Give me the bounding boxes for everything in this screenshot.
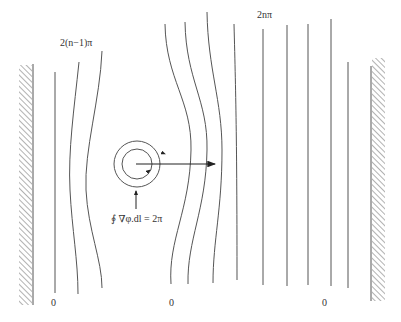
circulation-label: ∮ ∇φ.dl = 2π [111, 213, 162, 225]
zero-label-left: 0 [51, 297, 56, 308]
superfluid-phase-diagram: 2(n−1)π 2nπ ∮ ∇φ.dl = 2π 0 0 0 [0, 0, 401, 322]
phase-label-right: 2nπ [257, 9, 272, 20]
contour-line [165, 24, 191, 284]
contour-line [185, 22, 207, 284]
phase-label-left: 2(n−1)π [60, 37, 92, 49]
right-wall [371, 58, 385, 301]
contour-line [234, 24, 237, 280]
contour-line [70, 62, 79, 294]
left-wall [19, 64, 33, 305]
contour-line [86, 51, 102, 288]
zero-label-right: 0 [322, 297, 327, 308]
phase-contour-lines [55, 12, 348, 294]
zero-label-center: 0 [169, 297, 174, 308]
contour-line [207, 12, 222, 283]
